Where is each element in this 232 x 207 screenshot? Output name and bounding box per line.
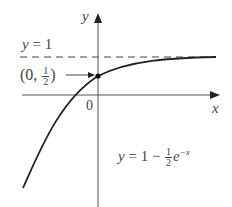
point-label-fraction: 1 2	[42, 66, 49, 87]
x-axis-arrow-icon	[210, 91, 220, 99]
curve-label-lhs: y	[118, 148, 125, 164]
asymptote-label: y = 1	[22, 37, 52, 52]
point-label-close: )	[50, 66, 55, 83]
point-label: (0, 1 2 )	[20, 66, 56, 87]
curve-label-den: 2	[166, 158, 171, 168]
point-label-den: 2	[43, 77, 48, 87]
origin-label: 0	[86, 99, 93, 113]
x-axis-label: x	[212, 101, 219, 116]
curve-label-base: e	[173, 148, 180, 164]
asymptote-label-rhs: 1	[45, 36, 53, 52]
asymptote-label-eq: =	[32, 36, 40, 52]
curve-label-fraction: 1 2	[165, 147, 172, 168]
point-marker	[95, 73, 100, 78]
point-pointer-arrow-icon	[88, 72, 95, 78]
curve-equation-label: y = 1 − 1 2 e−x	[118, 147, 190, 168]
y-axis-arrow-icon	[94, 13, 102, 23]
curve-label-mid: = 1 −	[128, 148, 160, 164]
point-label-open: (0,	[20, 66, 37, 83]
graph-canvas	[0, 0, 232, 207]
asymptote-label-lhs: y	[22, 36, 29, 52]
curve-label-exp: −x	[180, 147, 190, 157]
y-axis-label: y	[82, 9, 89, 24]
